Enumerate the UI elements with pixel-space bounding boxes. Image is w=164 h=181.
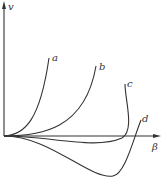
curve-label-b: b [99,62,105,72]
x-axis-label: β [152,142,158,152]
curve-a [4,58,49,136]
curve-label-d: d [142,114,148,124]
curve-c [4,84,129,143]
curve-b [4,66,96,136]
y-axis-arrow-icon [2,1,6,9]
y-axis-label: v [8,2,14,12]
curve-label-a: a [52,53,58,63]
x-axis-arrow-icon [153,134,161,138]
curve-d [4,120,141,176]
diagram-canvas [0,0,164,181]
curve-label-c: c [127,79,133,89]
